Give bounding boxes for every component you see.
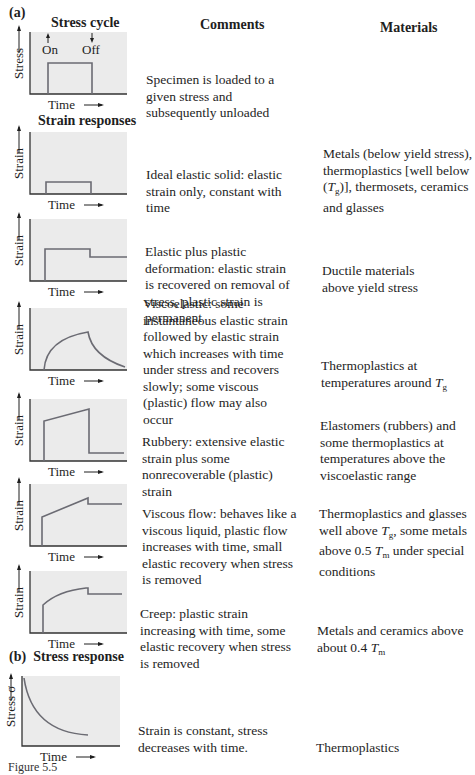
arrow-head-icon — [98, 642, 104, 646]
arrow-head-icon — [98, 470, 104, 474]
elastic-plastic-plot: StrainTime — [0, 215, 140, 305]
x-axis-label: Time — [48, 284, 75, 299]
material-viscous-flow: Thermoplastics and glasses well above Tg… — [319, 506, 474, 580]
figure-caption: Figure 5.5 — [8, 760, 57, 775]
arrow-head-icon — [98, 203, 104, 207]
x-axis-label: Time — [48, 197, 75, 212]
comment-viscoelastic: Viscoelastic: some instantaneous elastic… — [143, 296, 295, 428]
x-axis-label: Time — [48, 97, 75, 112]
material-creep: Metals and ceramics above about 0.4 Tm — [317, 623, 467, 660]
plot-background — [30, 308, 127, 370]
creep-plot: StrainTime — [0, 567, 140, 657]
arrow-head-icon — [98, 555, 104, 559]
off-label: Off — [82, 42, 100, 57]
arrow-head-icon — [98, 379, 104, 383]
comment-stress-relaxation: Strain is constant, stress decreases wit… — [138, 723, 288, 756]
material-rubbery: Elastomers (rubbers) and some thermoplas… — [320, 418, 470, 484]
x-axis-label: Time — [48, 636, 75, 651]
comment-creep: Creep: plastic strain increasing with ti… — [140, 606, 295, 672]
part-a-label: (a) — [9, 5, 25, 21]
arrow-head-icon — [98, 103, 104, 107]
comment-ideal-elastic: Ideal elastic solid: elastic strain only… — [146, 167, 296, 217]
rubbery-plot: StrainTime — [0, 395, 140, 485]
on-label: On — [42, 42, 58, 57]
arrow-head-icon — [9, 673, 13, 679]
materials-heading: Materials — [380, 20, 438, 36]
plot-background — [30, 132, 127, 194]
viscous-flow-plot: StrainTime — [0, 480, 140, 570]
strain-responses-heading: Strain responses — [38, 113, 136, 129]
arrow-head-icon — [17, 125, 21, 131]
material-elastic-plastic: Ductile materials above yield stress — [322, 263, 442, 296]
arrow-head-icon — [17, 25, 21, 31]
x-axis-label: Time — [48, 549, 75, 564]
arrow-head-icon — [90, 755, 96, 759]
plot-background — [30, 484, 127, 546]
comment-rubbery: Rubbery: extensive elastic strain plus s… — [142, 434, 294, 500]
material-ideal-elastic: Metals (below yield stress), thermoplast… — [323, 146, 473, 216]
x-axis-label: Time — [48, 373, 75, 388]
stress-relaxation-plot: Stress σTime — [0, 672, 140, 762]
comments-heading: Comments — [200, 17, 265, 33]
comment-stress-cycle: Specimen is loaded to a given stress and… — [146, 72, 296, 122]
ideal-elastic-plot: StrainTime — [0, 128, 140, 218]
material-viscoelastic: Thermoplastics at temperatures around Tg — [321, 358, 461, 395]
material-stress-relaxation: Thermoplastics — [316, 740, 466, 757]
viscoelastic-plot: StrainTime — [0, 304, 140, 394]
comment-viscous-flow: Viscous flow: behaves like a viscous liq… — [142, 506, 297, 589]
stress-cycle-plot: StressTimeOnOff — [0, 28, 140, 114]
x-axis-label: Time — [48, 464, 75, 479]
arrow-head-icon — [98, 290, 104, 294]
plot-background — [30, 571, 127, 633]
